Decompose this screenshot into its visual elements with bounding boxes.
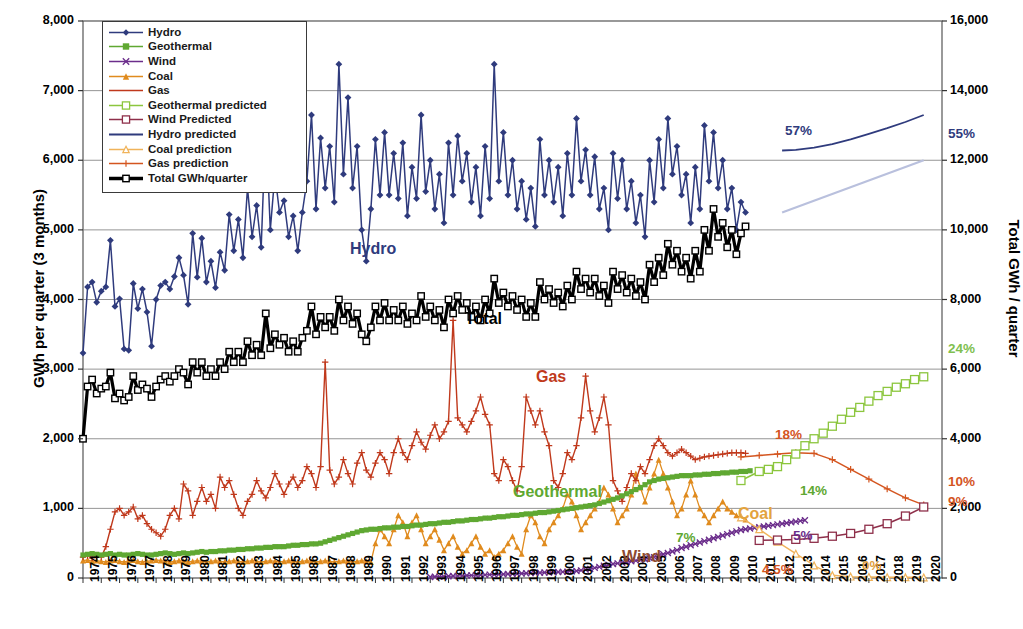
x-tick: 2018 (892, 555, 906, 582)
y-tick-left: 0 (22, 570, 74, 584)
y-tick-right: 12,000 (950, 152, 1010, 166)
annotation-label: Hydro (350, 240, 396, 258)
annotation-label: 24% (948, 341, 975, 356)
legend-label: Hydro predicted (148, 128, 236, 141)
legend-item-hydro[interactable]: Hydro (107, 25, 302, 40)
x-tick: 1997 (508, 555, 522, 582)
x-tick: 2014 (819, 555, 833, 582)
y-tick-left: 3,000 (22, 361, 74, 375)
annotation-label: Gas (536, 368, 566, 386)
legend-marker-icon (107, 70, 145, 83)
y-tick-left: 8,000 (22, 13, 74, 27)
legend-label: Geothermal predicted (148, 99, 267, 112)
x-tick: 1999 (545, 555, 559, 582)
x-tick: 1982 (234, 555, 248, 582)
x-tick: 1986 (307, 555, 321, 582)
x-tick: 1976 (125, 555, 139, 582)
annotation-label: Wind (622, 548, 661, 566)
legend-label: Geothermal (148, 40, 212, 53)
legend-label: Wind Predicted (148, 113, 232, 126)
y-tick-right: 0 (950, 570, 1010, 584)
x-tick: 1988 (344, 555, 358, 582)
legend-item-coal[interactable]: Coal (107, 69, 302, 84)
y-tick-left: 6,000 (22, 152, 74, 166)
y-tick-right: 6,000 (950, 361, 1010, 375)
legend-marker-icon (107, 84, 145, 97)
x-tick: 2013 (801, 555, 815, 582)
legend-item-hydro-predicted[interactable]: Hydro predicted (107, 127, 302, 142)
annotation-label: 7% (676, 530, 696, 545)
x-tick: 2015 (837, 555, 851, 582)
annotation-label: 14% (800, 483, 827, 498)
chart-legend[interactable]: HydroGeothermalWindCoalGasGeothermal pre… (102, 21, 307, 193)
legend-marker-icon (107, 99, 145, 112)
legend-item-geothermal[interactable]: Geothermal (107, 40, 302, 55)
x-tick: 1993 (435, 555, 449, 582)
legend-item-wind[interactable]: Wind (107, 54, 302, 69)
y-tick-left: 4,000 (22, 292, 74, 306)
x-tick: 1981 (216, 555, 230, 582)
legend-label: Wind (148, 55, 176, 68)
annotation-label: 0% (862, 558, 882, 573)
x-tick: 1995 (472, 555, 486, 582)
annotation-label: 55% (948, 126, 975, 141)
legend-item-total-gwh-quarter[interactable]: Total GWh/quarter (107, 171, 302, 186)
legend-item-gas-prediction[interactable]: Gas prediction (107, 156, 302, 171)
x-tick: 2020 (929, 555, 943, 582)
x-tick: 1987 (326, 555, 340, 582)
x-tick: 1992 (417, 555, 431, 582)
x-tick: 2019 (910, 555, 924, 582)
annotation-label: 18% (775, 427, 802, 442)
legend-marker-icon (107, 157, 145, 170)
y-tick-left: 2,000 (22, 431, 74, 445)
x-tick: 1985 (289, 555, 303, 582)
x-tick: 1984 (271, 555, 285, 582)
y-tick-left: 1,000 (22, 500, 74, 514)
legend-marker-icon (107, 40, 145, 53)
x-tick: 1994 (454, 555, 468, 582)
y-tick-right: 8,000 (950, 292, 1010, 306)
x-tick: 1996 (490, 555, 504, 582)
x-tick: 2002 (600, 555, 614, 582)
legend-label: Hydro (148, 26, 181, 39)
legend-label: Coal prediction (148, 143, 232, 156)
legend-marker-icon (107, 113, 145, 126)
x-tick: 1989 (362, 555, 376, 582)
x-tick: 1979 (179, 555, 193, 582)
x-tick: 1977 (143, 555, 157, 582)
x-tick: 2009 (728, 555, 742, 582)
y-tick-left: 7,000 (22, 83, 74, 97)
y-tick-right: 14,000 (950, 83, 1010, 97)
y-tick-right: 10,000 (950, 222, 1010, 236)
annotation-label: 5% (793, 528, 813, 543)
annotation-label: 9% (948, 494, 968, 509)
legend-marker-icon (107, 143, 145, 156)
legend-item-wind-predicted[interactable]: Wind Predicted (107, 113, 302, 128)
legend-item-gas[interactable]: Gas (107, 83, 302, 98)
x-tick: 1990 (380, 555, 394, 582)
legend-item-geothermal-predicted[interactable]: Geothermal predicted (107, 98, 302, 113)
x-tick: 2001 (581, 555, 595, 582)
x-tick: 1978 (161, 555, 175, 582)
x-tick: 1980 (198, 555, 212, 582)
legend-marker-icon (107, 172, 145, 185)
legend-marker-icon (107, 26, 145, 39)
x-tick: 2000 (563, 555, 577, 582)
legend-item-coal-prediction[interactable]: Coal prediction (107, 142, 302, 157)
annotation-label: Coal (738, 505, 773, 523)
legend-label: Coal (148, 70, 173, 83)
legend-label: Gas (148, 84, 170, 97)
x-tick: 1983 (252, 555, 266, 582)
annotation-label: Total (465, 310, 502, 328)
x-tick: 1975 (106, 555, 120, 582)
legend-marker-icon (107, 128, 145, 141)
x-tick: 2007 (691, 555, 705, 582)
x-tick: 2008 (709, 555, 723, 582)
annotation-label: 4.5% (762, 562, 793, 577)
y-tick-right: 4,000 (950, 431, 1010, 445)
annotation-label: 10% (948, 474, 975, 489)
x-tick: 1998 (527, 555, 541, 582)
x-tick: 2006 (673, 555, 687, 582)
annotation-label: 57% (785, 123, 812, 138)
y-tick-left: 5,000 (22, 222, 74, 236)
